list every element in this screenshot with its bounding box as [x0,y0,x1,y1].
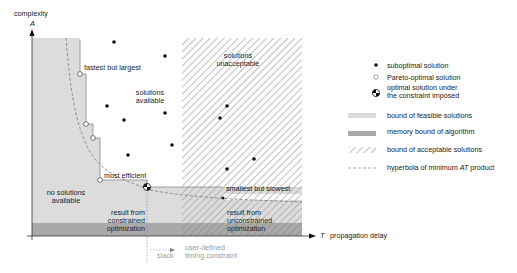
solutions-unacceptable-label-2: unacceptable [217,59,260,68]
legend-pareto-label: Pareto-optimal solution [387,73,461,82]
legend-optimal-icon [372,89,379,96]
legend-acceptable-label: bound of acceptable solutions [387,145,483,154]
legend-feasible-swatch [348,113,376,118]
fastest-label: fastest but largest [84,63,141,72]
solutions-available-label-2: available [136,96,164,105]
optimal-point-icon [143,183,150,190]
most-efficient-label: most efficient [104,171,146,180]
timing-label-2: timing constraint [185,251,237,260]
x-axis-label: propagation delay [330,231,388,240]
x-axis-symbol: T [320,231,326,240]
y-axis-arrow-icon [30,29,35,36]
y-axis-symbol: A [29,19,35,28]
no-solutions-label-2: available [52,196,80,205]
y-axis-label: complexity [14,9,48,18]
slack-label: slack [157,251,174,260]
legend-acceptable-swatch [348,147,376,153]
constrained-label-3: optimization [107,224,145,233]
legend-memory-label: memory bound of algorithm [387,127,475,136]
x-axis-arrow-icon [309,234,316,239]
legend-memory-swatch [348,131,376,136]
legend-optimal-label-2: the constraint imposed [387,91,459,100]
unconstrained-label-3: optimization [227,224,265,233]
legend-hyperbola-label: hyperbola of minimum AT product [387,163,494,172]
legend-suboptimal-icon [374,63,378,67]
slowest-label-bg [222,194,302,200]
legend: suboptimal solution Pareto-optimal solut… [348,61,494,173]
legend-feasible-label: bound of feasible solutions [387,111,473,120]
legend-suboptimal-label: suboptimal solution [387,61,449,70]
legend-pareto-icon [374,75,378,79]
smallest-label: smallest but slowest [226,184,290,193]
pareto-diagram: complexity A T propagation delay fastest… [0,0,517,273]
